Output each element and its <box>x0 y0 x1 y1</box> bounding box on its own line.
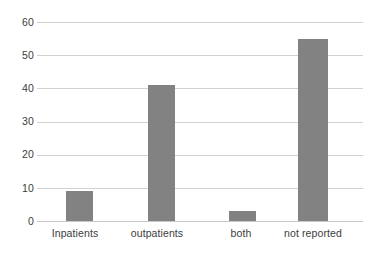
y-axis-tick-label-20: 20 <box>0 149 34 160</box>
bar-outpatients <box>148 85 175 221</box>
gridline-60 <box>37 22 363 23</box>
y-axis-tick-label-10: 10 <box>0 183 34 194</box>
x-axis-baseline <box>37 221 363 222</box>
bar-inpatients <box>66 191 93 221</box>
y-axis-tick-label-40: 40 <box>0 83 34 94</box>
plot-area <box>37 22 363 221</box>
y-axis-tick-label-30: 30 <box>0 116 34 127</box>
bar-both <box>229 211 256 221</box>
y-axis-tick-label-50: 50 <box>0 50 34 61</box>
y-axis-tick-label-0: 0 <box>0 216 34 227</box>
y-axis-tick-label-60: 60 <box>0 17 34 28</box>
bar-chart: 60 50 40 30 20 10 0 Inpatients outpatien… <box>0 0 382 257</box>
x-axis-label-outpatients: outpatients <box>111 228 203 239</box>
x-axis-label-inpatients: Inpatients <box>29 228 121 239</box>
x-axis-label-not-reported: not reported <box>267 228 359 239</box>
bar-not-reported <box>298 39 328 221</box>
